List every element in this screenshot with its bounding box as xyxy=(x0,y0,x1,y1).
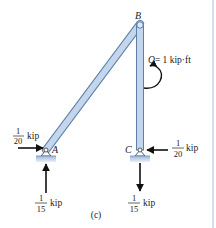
moment-arrow-icon xyxy=(144,65,162,88)
svg-text:15: 15 xyxy=(37,204,46,214)
figure-caption: (c) xyxy=(91,210,102,221)
svg-text:20: 20 xyxy=(14,136,23,146)
svg-text:kip: kip xyxy=(186,143,198,153)
node-label-a: A xyxy=(51,144,59,155)
node-label-c: C xyxy=(125,144,132,155)
svg-text:20: 20 xyxy=(174,149,183,159)
svg-text:15: 15 xyxy=(130,204,139,214)
joint-b xyxy=(137,22,143,28)
svg-text:1: 1 xyxy=(16,126,20,136)
svg-text:1: 1 xyxy=(132,193,136,203)
reaction-a-horizontal-label: 1 20 kip xyxy=(13,126,39,146)
member-ab xyxy=(46,24,140,150)
reaction-c-horizontal-label: 1 20 kip xyxy=(172,138,198,159)
svg-text:1: 1 xyxy=(176,138,180,148)
svg-text:1: 1 xyxy=(39,193,43,203)
reaction-a-vertical-label: 1 15 kip xyxy=(35,193,62,214)
node-label-b: B xyxy=(135,10,141,21)
svg-text:kip: kip xyxy=(143,198,155,208)
moment-label: Q= 1 kip·ft xyxy=(148,55,191,65)
member-bc xyxy=(137,24,144,150)
svg-text:kip: kip xyxy=(27,131,39,141)
frame-diagram: B A C Q= 1 kip·ft 1 20 kip 1 15 kip 1 20… xyxy=(0,0,216,228)
svg-text:kip: kip xyxy=(50,198,62,208)
reaction-c-vertical-label: 1 15 kip xyxy=(128,193,155,214)
